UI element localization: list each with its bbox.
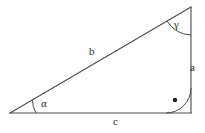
right-angle-dot-icon	[173, 98, 177, 102]
side-a-label: a	[190, 62, 195, 73]
side-c-label: c	[113, 116, 118, 127]
angle-gamma-label: γ	[174, 19, 179, 30]
right-angle-arc	[166, 88, 191, 113]
angle-gamma-arc	[167, 21, 191, 35]
side-b-label: b	[89, 46, 95, 57]
angle-alpha-arc	[32, 100, 36, 113]
triangle-diagram: b a c α γ	[0, 0, 205, 133]
side-b-line	[10, 7, 191, 113]
angle-alpha-label: α	[41, 98, 47, 109]
